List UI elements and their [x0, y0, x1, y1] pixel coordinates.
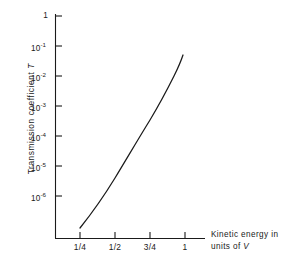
y-tick-exponent: -4: [40, 131, 46, 138]
y-tick-marks: [56, 16, 63, 196]
y-tick-exponent: -3: [40, 101, 46, 108]
y-tick-label-1: 1: [18, 11, 48, 20]
y-tick-label-1e-1: 10-1: [16, 41, 46, 53]
data-curve-transmission: [80, 55, 183, 228]
y-tick-exponent: -5: [40, 161, 46, 168]
y-tick-exponent: -2: [40, 71, 46, 78]
y-tick-label-1e-3: 10-3: [16, 101, 46, 113]
y-axis-title-symbol: T: [26, 64, 36, 69]
transmission-coefficient-chart: Transmission coefficient T 1 10-1 10-2 1…: [0, 0, 301, 274]
x-axis-title: Kinetic energy in units of V: [211, 229, 278, 252]
x-axis-title-line1: Kinetic energy in: [211, 229, 278, 241]
y-tick-label-1e-4: 10-4: [16, 131, 46, 143]
y-tick-label-1e-2: 10-2: [16, 71, 46, 83]
x-axis-title-units-text: units of: [211, 242, 243, 251]
x-tick-label-three-quarters: 3/4: [137, 242, 163, 252]
x-tick-marks: [80, 232, 185, 239]
x-axis-title-line2: units of V: [211, 241, 278, 253]
y-tick-label-1e-5: 10-5: [16, 161, 46, 173]
y-tick-label-1e-6: 10-6: [16, 191, 46, 203]
y-tick-exponent: -1: [40, 41, 46, 48]
x-tick-label-half: 1/2: [102, 242, 128, 252]
x-tick-label-one: 1: [172, 242, 198, 252]
x-axis-title-symbol: V: [243, 242, 248, 251]
y-tick-exponent: -6: [40, 191, 46, 198]
y-tick-mantissa: 1: [43, 11, 48, 20]
x-tick-label-quarter: 1/4: [67, 242, 93, 252]
y-axis-title-text: Transmission coefficient: [26, 69, 36, 174]
y-axis-title: Transmission coefficient T: [20, 34, 34, 204]
